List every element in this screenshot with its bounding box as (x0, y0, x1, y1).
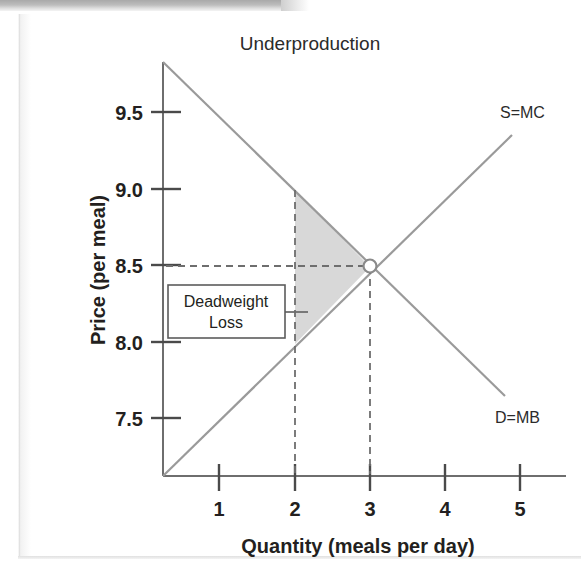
y-tick-label-8.5: 8.5 (115, 255, 143, 277)
deadweight-loss-shaded-region (295, 190, 370, 344)
equilibrium-point-marker (364, 260, 377, 273)
supply-curve-label: S=MC (500, 104, 545, 121)
x-tick-label-4: 4 (439, 498, 451, 520)
callout-line-1: Deadweight (184, 293, 269, 310)
x-axis-label: Quantity (meals per day) (241, 535, 474, 557)
underproduction-chart: Underproduction 9.5 9.0 8.5 8.0 7.5 1 2 … (0, 0, 581, 579)
chart-title: Underproduction (240, 33, 380, 54)
y-tick-label-7.5: 7.5 (115, 408, 143, 430)
chart-page: Underproduction 9.5 9.0 8.5 8.0 7.5 1 2 … (0, 0, 581, 579)
y-tick-label-8.0: 8.0 (115, 332, 143, 354)
y-axis-label: Price (per meal) (87, 195, 109, 345)
x-tick-label-3: 3 (364, 498, 375, 520)
y-tick-label-9.5: 9.5 (115, 102, 143, 124)
x-tick-label-2: 2 (289, 498, 300, 520)
demand-curve-label: D=MB (495, 409, 540, 426)
x-tick-label-5: 5 (514, 498, 525, 520)
x-tick-label-1: 1 (213, 498, 224, 520)
y-tick-label-9.0: 9.0 (115, 179, 143, 201)
callout-line-2: Loss (209, 314, 243, 331)
demand-curve (163, 62, 505, 396)
